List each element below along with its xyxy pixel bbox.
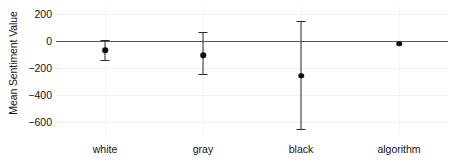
data-point	[396, 41, 402, 47]
x-tick-label: gray	[193, 143, 213, 155]
gridline	[56, 68, 448, 69]
y-tick-label: −600	[0, 117, 52, 128]
error-bar-cap	[101, 60, 110, 61]
error-bar-cap	[101, 40, 110, 41]
plot-area	[56, 6, 448, 136]
gridline	[56, 95, 448, 96]
y-tick-label: 0	[0, 36, 52, 47]
error-bar-chart: Mean Sentiment Value 200 0 −200 −400 −60…	[0, 0, 452, 166]
data-point	[102, 47, 108, 53]
x-tick-label: black	[289, 143, 314, 155]
error-bar-cap	[199, 74, 208, 75]
y-tick-label: −200	[0, 63, 52, 74]
y-axis-tick-labels: 200 0 −200 −400 −600	[0, 6, 52, 136]
vertical-gridline	[399, 6, 400, 136]
vertical-gridline	[105, 6, 106, 136]
y-tick-label: 200	[0, 9, 52, 20]
gridline	[56, 14, 448, 15]
x-tick-label: algorithm	[377, 143, 420, 155]
error-bar-cap	[199, 32, 208, 33]
data-point	[200, 53, 206, 59]
data-point	[298, 73, 304, 79]
x-tick-label: white	[93, 143, 118, 155]
error-bar-cap	[297, 21, 306, 22]
error-bar-cap	[297, 129, 306, 130]
gridline	[56, 122, 448, 123]
zero-reference-line	[56, 41, 448, 42]
y-tick-label: −400	[0, 90, 52, 101]
